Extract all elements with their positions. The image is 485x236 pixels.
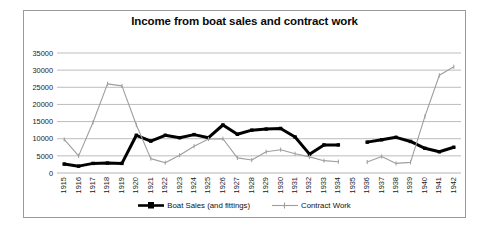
data-point-marker <box>135 134 138 137</box>
x-tick-label: 1917 <box>88 177 97 193</box>
chart-legend: Boat Sales (and fittings) Contract Work <box>24 201 465 210</box>
data-point-marker <box>106 161 109 164</box>
plot-area: 05000100001500020000250003000035000 1915… <box>24 11 467 219</box>
data-point-marker <box>322 143 325 146</box>
legend-label-boat-sales: Boat Sales (and fittings) <box>167 201 250 210</box>
y-tick-label: 25000 <box>32 83 53 92</box>
x-tick-label: 1939 <box>405 177 414 193</box>
x-tick-label: 1927 <box>232 177 241 193</box>
x-tick-label: 1925 <box>203 177 212 193</box>
y-tick-label: 10000 <box>32 134 53 143</box>
data-point-marker <box>293 135 296 138</box>
y-tick-label: 35000 <box>32 49 53 58</box>
data-point-marker <box>438 150 441 153</box>
x-tick-label: 1928 <box>247 177 256 193</box>
x-tick-label: 1920 <box>131 177 140 193</box>
data-point-marker <box>337 143 340 146</box>
y-tick-label: 30000 <box>32 66 53 75</box>
data-point-marker <box>91 162 94 165</box>
x-tick-label: 1929 <box>261 177 270 193</box>
x-tick-label: 1932 <box>304 177 313 193</box>
y-tick-label: 20000 <box>32 100 53 109</box>
series-lines <box>63 65 456 168</box>
x-tick-label: 1918 <box>102 177 111 193</box>
x-tick-label: 1919 <box>117 177 126 193</box>
data-point-marker <box>164 134 167 137</box>
y-tick-label: 15000 <box>32 117 53 126</box>
data-point-marker <box>63 162 66 165</box>
x-tick-label: 1936 <box>362 177 371 193</box>
x-tick-label: 1935 <box>348 177 357 193</box>
x-tick-label: 1940 <box>420 177 429 193</box>
x-tick-label: 1916 <box>74 177 83 193</box>
gridlines <box>57 53 461 173</box>
legend-swatch-boat-sales <box>138 201 164 210</box>
data-point-marker <box>149 139 152 142</box>
data-point-marker <box>265 127 268 130</box>
x-axis-tick-labels: 1915191619171918191919201921192219231924… <box>59 177 458 193</box>
data-point-marker <box>221 123 224 126</box>
data-point-marker <box>77 164 80 167</box>
x-tick-label: 1922 <box>160 177 169 193</box>
data-point-marker <box>279 127 282 130</box>
x-tick-label: 1931 <box>290 177 299 193</box>
x-tick-label: 1934 <box>333 177 342 193</box>
x-tick-label: 1937 <box>377 177 386 193</box>
x-tick-label: 1930 <box>276 177 285 193</box>
x-tick-label: 1924 <box>189 177 198 193</box>
data-point-marker <box>423 147 426 150</box>
x-tick-label: 1938 <box>391 177 400 193</box>
data-point-marker <box>192 133 195 136</box>
legend-swatch-contract-work <box>272 201 298 210</box>
series-line <box>367 67 454 164</box>
x-tick-label: 1933 <box>319 177 328 193</box>
series-line <box>64 84 338 163</box>
legend-item-boat-sales: Boat Sales (and fittings) <box>138 201 250 210</box>
y-tick-label: 0 <box>49 169 53 178</box>
data-point-marker <box>250 128 253 131</box>
y-axis-tick-labels: 05000100001500020000250003000035000 <box>32 49 53 178</box>
y-tick-label: 5000 <box>37 152 53 161</box>
legend-label-contract-work: Contract Work <box>301 201 351 210</box>
data-point-marker <box>236 133 239 136</box>
data-point-marker <box>120 162 123 165</box>
x-tick-label: 1926 <box>218 177 227 193</box>
x-tick-label: 1923 <box>175 177 184 193</box>
x-tick-label: 1942 <box>449 177 458 193</box>
x-tick-label: 1915 <box>59 177 68 193</box>
legend-item-contract-work: Contract Work <box>272 201 351 210</box>
data-point-marker <box>394 136 397 139</box>
data-point-marker <box>409 140 412 143</box>
data-point-marker <box>452 146 455 149</box>
x-tick-label: 1941 <box>434 177 443 193</box>
chart-frame: Income from boat sales and contract work… <box>23 10 466 218</box>
series-line <box>64 125 338 166</box>
data-point-marker <box>178 136 181 139</box>
data-point-marker <box>380 138 383 141</box>
x-tick-label: 1921 <box>146 177 155 193</box>
line-chart-svg: 05000100001500020000250003000035000 1915… <box>24 11 467 219</box>
data-point-marker <box>366 140 369 143</box>
